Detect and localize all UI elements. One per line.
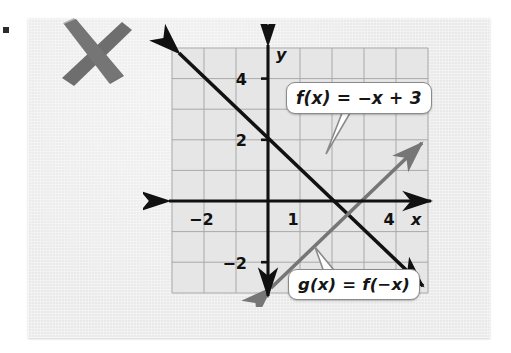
callout-g-equation: g(x) = f(−x) bbox=[288, 269, 420, 300]
callout-f-equation: f(x) = −x + 3 bbox=[286, 82, 432, 114]
y-tick-4: 4 bbox=[236, 70, 247, 89]
x-tick-1: 1 bbox=[287, 210, 298, 229]
x-mark-icon bbox=[50, 16, 136, 90]
screenshot-root: 4 2 −2 −2 1 4 y x f(x) = −x + 3 g(x) = f… bbox=[0, 0, 511, 353]
y-tick-n2: −2 bbox=[222, 254, 247, 273]
list-bullet bbox=[3, 27, 9, 33]
x-tick-4: 4 bbox=[383, 210, 394, 229]
x-axis-label: x bbox=[410, 210, 422, 229]
y-tick-2: 2 bbox=[236, 131, 247, 150]
y-axis-label: y bbox=[276, 45, 287, 64]
x-tick-n2: −2 bbox=[189, 210, 214, 229]
coordinate-plane: 4 2 −2 −2 1 4 y x bbox=[143, 24, 433, 307]
